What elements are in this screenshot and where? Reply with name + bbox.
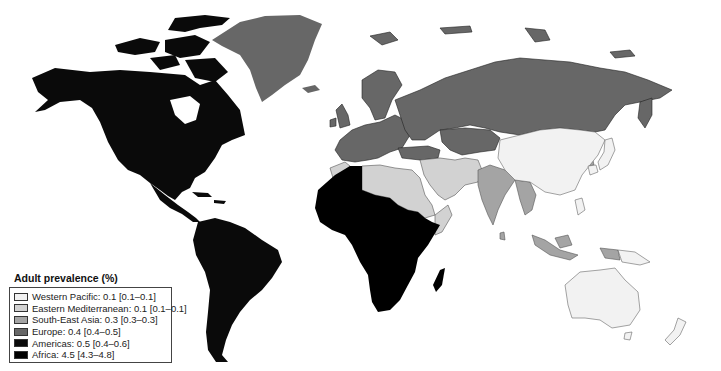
legend-label: Africa: 4.5 [4.3–4.8] [32,349,114,360]
legend-title: Adult prevalence (%) [14,272,118,284]
legend-item-south-east-asia: South-East Asia: 0.3 [0.3–0.3] [14,314,171,326]
legend-label: South-East Asia: 0.3 [0.3–0.3] [32,314,158,325]
legend-item-europe: Europe: 0.4 [0.4–0.5] [14,326,171,338]
legend-item-western-pacific: Western Pacific: 0.1 [0.1–0.1] [14,291,171,303]
swatch-europe [14,328,28,336]
swatch-africa [14,351,28,359]
region-western-pacific [498,128,686,345]
swatch-western-pacific [14,293,28,301]
legend-item-africa: Africa: 4.5 [4.3–4.8] [14,349,171,361]
swatch-americas [14,339,28,347]
swatch-south-east-asia [14,316,28,324]
legend-item-eastern-mediterranean: Eastern Mediterranean: 0.1 [0.1–0.1] [14,303,171,315]
legend-label: Western Pacific: 0.1 [0.1–0.1] [32,291,156,302]
swatch-eastern-mediterranean [14,304,28,312]
legend-label: Eastern Mediterranean: 0.1 [0.1–0.1] [32,303,187,314]
legend-label: Europe: 0.4 [0.4–0.5] [32,326,121,337]
legend-item-americas: Americas: 0.5 [0.4–0.6] [14,337,171,349]
legend-label: Americas: 0.5 [0.4–0.6] [32,338,130,349]
map-legend: Western Pacific: 0.1 [0.1–0.1] Eastern M… [9,287,172,363]
